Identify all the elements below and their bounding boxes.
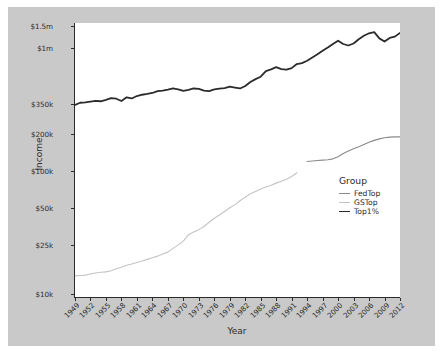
legend-item-label: GSTop — [354, 198, 378, 207]
y-tick-mark — [71, 134, 74, 135]
legend-item-label: FedTop — [354, 189, 380, 198]
x-tick-mark — [121, 298, 122, 301]
y-tick-mark — [71, 294, 74, 295]
y-tick-label: $1.5m — [30, 22, 53, 31]
y-tick-mark — [71, 48, 74, 49]
y-tick-label: $350k — [31, 100, 53, 109]
legend-swatch-icon — [339, 202, 350, 203]
legend-title: Group — [339, 175, 380, 186]
y-tick-mark — [71, 208, 74, 209]
y-tick-mark — [71, 245, 74, 246]
series-line-top1 — [75, 32, 400, 105]
y-tick-label: $25k — [36, 241, 53, 250]
legend-item-label: Top1% — [354, 207, 379, 216]
chart-figure: $10k$25k$50k$100k$200k$350k$1m$1.5m 1949… — [8, 7, 435, 346]
x-axis-line — [74, 297, 400, 298]
y-tick-label: $10k — [36, 290, 53, 299]
legend-swatch-icon — [339, 193, 350, 194]
series-line-fedtop — [307, 137, 400, 162]
legend-swatch-icon — [339, 211, 350, 213]
y-tick-mark — [71, 26, 74, 27]
y-tick-mark — [71, 104, 74, 105]
series-lines — [75, 23, 400, 297]
legend-item-top1[interactable]: Top1% — [339, 207, 380, 216]
y-axis-title: Income — [34, 114, 44, 194]
legend-item-gstop[interactable]: GSTop — [339, 198, 380, 207]
legend-item-fedtop[interactable]: FedTop — [339, 189, 380, 198]
x-tick-mark — [90, 298, 91, 301]
y-tick-label: $50k — [36, 204, 53, 213]
y-axis-line — [74, 23, 75, 298]
x-axis-title: Year — [74, 326, 400, 336]
series-line-gstop — [75, 173, 297, 276]
y-tick-mark — [71, 171, 74, 172]
legend-items: FedTopGSTopTop1% — [339, 189, 380, 216]
y-tick-label: $1m — [37, 44, 53, 53]
legend: Group FedTopGSTopTop1% — [339, 175, 380, 216]
plot-panel — [75, 23, 400, 297]
